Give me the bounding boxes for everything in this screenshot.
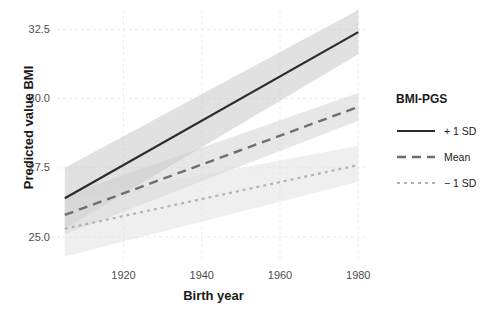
plot-area-svg	[57, 10, 370, 262]
legend-key-icon-0	[396, 124, 436, 138]
legend-key-icon-2	[396, 176, 436, 190]
legend-title: BMI-PGS	[396, 92, 486, 106]
legend-key-icon-1	[396, 150, 436, 164]
bmi-pgs-birth-year-chart: 25.027.530.032.5 1920194019601980 Predic…	[0, 0, 486, 317]
y-axis-title: Predicted value BMI	[21, 38, 36, 218]
x-tick-label-3: 1980	[346, 270, 370, 281]
legend-label-1: Mean	[436, 151, 470, 163]
x-axis-ticks: 1920194019601980	[57, 270, 370, 284]
legend-label-0: + 1 SD	[436, 125, 476, 137]
legend-label-2: − 1 SD	[436, 177, 476, 189]
plot-panel	[57, 10, 370, 262]
x-tick-label-0: 1920	[111, 270, 135, 281]
y-tick-label-3: 32.5	[29, 24, 50, 35]
legend-entry-0: + 1 SD	[396, 118, 486, 144]
legend: BMI-PGS + 1 SDMean− 1 SD	[396, 92, 486, 196]
legend-entry-1: Mean	[396, 144, 486, 170]
y-tick-label-0: 25.0	[29, 232, 50, 243]
x-tick-label-1: 1940	[190, 270, 214, 281]
legend-entries: + 1 SDMean− 1 SD	[396, 118, 486, 196]
x-axis-title: Birth year	[57, 288, 370, 303]
x-tick-label-2: 1960	[268, 270, 292, 281]
legend-entry-2: − 1 SD	[396, 170, 486, 196]
